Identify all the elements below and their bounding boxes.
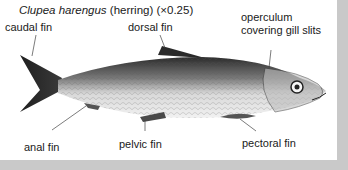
anal-fin-leader: [52, 106, 86, 130]
dorsal-fin-leader: [160, 35, 165, 48]
caudal-fin-leader: [32, 35, 36, 56]
label-caudal-fin: caudal fin: [5, 21, 52, 34]
label-pelvic-fin: pelvic fin: [119, 138, 162, 151]
pectoral-fin-leader: [240, 119, 256, 131]
operculum-leader: [269, 50, 271, 68]
label-anal-fin: anal fin: [24, 141, 59, 154]
label-operculum-line2: covering gill slits: [241, 24, 321, 37]
label-dorsal-fin: dorsal fin: [128, 21, 173, 34]
caudal-fin-shape: [20, 55, 62, 112]
label-pectoral-fin: pectoral fin: [242, 137, 296, 150]
label-operculum-line1: operculum: [241, 11, 292, 24]
diagram-panel: Clupea harengus (herring) (×0.25): [0, 0, 337, 160]
